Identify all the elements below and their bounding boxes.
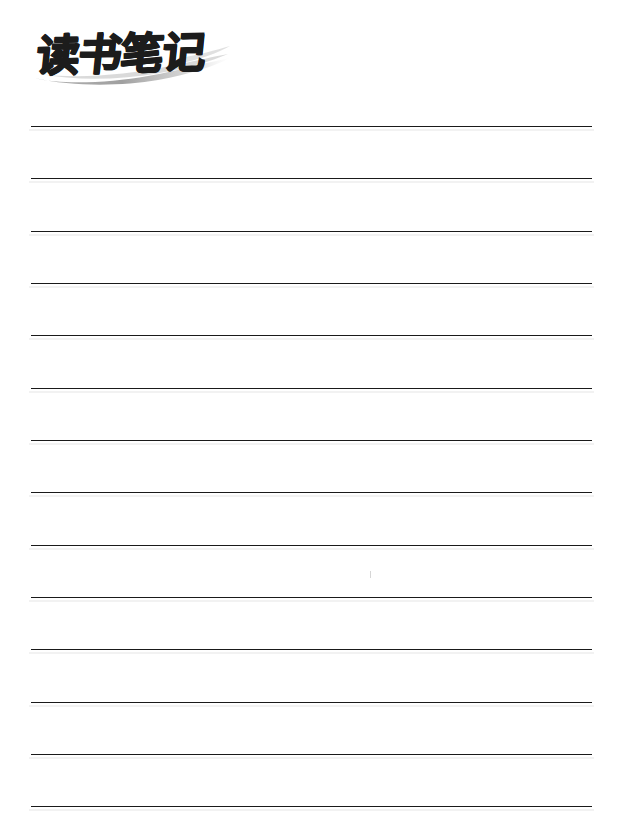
ruled-line bbox=[31, 754, 592, 755]
ruled-line bbox=[31, 388, 592, 389]
ruled-line bbox=[31, 126, 592, 127]
ruled-line bbox=[31, 335, 592, 336]
scan-artifact-tick bbox=[370, 571, 371, 578]
ruled-line bbox=[31, 492, 592, 493]
ruled-line bbox=[31, 231, 592, 232]
ruled-lines-group bbox=[0, 0, 619, 827]
ruled-line bbox=[31, 597, 592, 598]
ruled-line bbox=[31, 545, 592, 546]
ruled-line bbox=[31, 178, 592, 179]
notebook-page: 读书笔记 bbox=[0, 0, 619, 827]
ruled-line bbox=[31, 806, 592, 807]
ruled-line bbox=[31, 283, 592, 284]
ruled-line bbox=[31, 702, 592, 703]
ruled-line bbox=[31, 649, 592, 650]
ruled-line bbox=[31, 440, 592, 441]
